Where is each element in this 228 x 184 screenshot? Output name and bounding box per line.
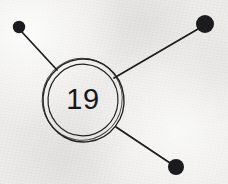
- connector-top-right: [114, 29, 198, 78]
- top-left-node: [13, 21, 25, 33]
- top-right-node: [196, 15, 214, 33]
- bottom-right-node: [168, 159, 184, 175]
- connector-top-left: [21, 31, 57, 70]
- diagram-canvas: 19: [0, 0, 228, 184]
- center-node-label: 19: [0, 82, 166, 116]
- connector-bottom-right: [116, 127, 170, 163]
